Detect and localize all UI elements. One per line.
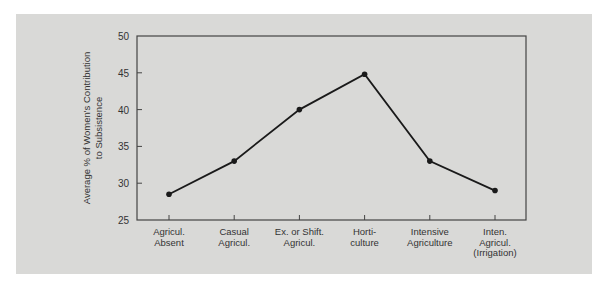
x-category-label-line: Ex. or Shift. bbox=[275, 226, 324, 237]
x-category-label: Inten.Agricul.(Irrigation) bbox=[473, 226, 516, 258]
y-tick-label: 50 bbox=[118, 31, 130, 42]
x-category-label-line: Horti- bbox=[353, 226, 376, 237]
plot-frame bbox=[137, 36, 526, 220]
x-category-label: CasualAgricul. bbox=[218, 226, 250, 248]
data-point bbox=[492, 188, 498, 194]
y-tick-label: 30 bbox=[118, 178, 130, 189]
x-category-label-line: Agricul. bbox=[284, 237, 316, 248]
data-series bbox=[166, 71, 498, 197]
data-point bbox=[427, 158, 433, 164]
x-category-label-line: Inten. bbox=[483, 226, 507, 237]
data-point bbox=[231, 158, 237, 164]
x-category-label-line: Agricul. bbox=[218, 237, 250, 248]
x-category-label-line: Casual bbox=[219, 226, 249, 237]
x-category-label: Ex. or Shift.Agricul. bbox=[275, 226, 324, 248]
data-point bbox=[297, 107, 303, 113]
y-axis-ticks: 253035404550 bbox=[118, 31, 142, 226]
x-category-label-line: Agricul. bbox=[153, 226, 185, 237]
y-axis-title-line: to Subsistence bbox=[93, 97, 104, 159]
x-category-label-line: Absent bbox=[154, 237, 184, 248]
y-tick-label: 35 bbox=[118, 141, 130, 152]
x-category-label-line: Agriculture bbox=[407, 237, 452, 248]
y-tick-label: 45 bbox=[118, 68, 130, 79]
data-point bbox=[166, 191, 172, 197]
x-category-label: Horti-culture bbox=[350, 226, 379, 248]
y-axis-title: Average % of Women's Contributionto Subs… bbox=[81, 52, 104, 205]
x-category-label-line: Agricul. bbox=[479, 237, 511, 248]
x-category-label-line: (Irrigation) bbox=[473, 247, 516, 258]
y-tick-label: 40 bbox=[118, 105, 130, 116]
x-category-label-line: culture bbox=[350, 237, 379, 248]
x-category-label: IntensiveAgriculture bbox=[407, 226, 452, 248]
data-point bbox=[362, 71, 368, 77]
x-axis-ticks: Agricul.AbsentCasualAgricul.Ex. or Shift… bbox=[153, 215, 516, 258]
y-tick-label: 25 bbox=[118, 215, 130, 226]
x-category-label: Agricul.Absent bbox=[153, 226, 185, 248]
x-category-label-line: Intensive bbox=[411, 226, 449, 237]
y-axis-label: Average % of Women's Contributionto Subs… bbox=[81, 52, 104, 205]
series-line bbox=[169, 74, 495, 194]
y-axis-title-line: Average % of Women's Contribution bbox=[81, 52, 92, 205]
line-chart: Average % of Women's Contributionto Subs… bbox=[0, 0, 605, 284]
